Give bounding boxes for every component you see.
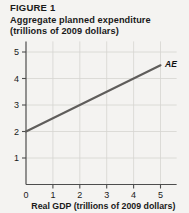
x-axis-title-text: Real GDP (trillions of 2009 dollars) — [31, 201, 175, 211]
ae-line — [26, 65, 161, 131]
x-tick-label: 2 — [77, 190, 82, 200]
x-tick-label: 3 — [104, 190, 109, 200]
y-tick-label: 2 — [14, 127, 19, 137]
x-axis-title: Real GDP (trillions of 2009 dollars) — [31, 201, 175, 211]
figure-container: FIGURE 1 Aggregate planned expenditure (… — [0, 0, 189, 213]
ae-series-label: AE — [164, 59, 177, 69]
data-series — [26, 65, 161, 131]
y-tick-label: 3 — [14, 100, 19, 110]
y-tick-label: 5 — [14, 47, 19, 57]
x-tick-label: 4 — [131, 190, 136, 200]
axis-lines — [26, 41, 177, 184]
chart-plot-area: 01234512345 AE Real GDP (trillions of 20… — [0, 0, 189, 213]
axis-ticks — [22, 52, 161, 189]
gridlines — [26, 41, 177, 184]
y-tick-label: 1 — [14, 153, 19, 163]
x-tick-label: 1 — [50, 190, 55, 200]
x-tick-label: 5 — [158, 190, 163, 200]
axis-tick-labels: 01234512345 — [14, 47, 163, 200]
x-tick-label: 0 — [23, 190, 28, 200]
series-label-ae: AE — [164, 59, 177, 69]
y-tick-label: 4 — [14, 74, 19, 84]
